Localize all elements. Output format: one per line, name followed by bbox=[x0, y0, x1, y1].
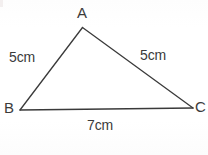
triangle-side-ac bbox=[83, 28, 194, 109]
side-length-label-bc: 7cm bbox=[87, 118, 113, 132]
triangle-side-ab bbox=[20, 28, 83, 111]
vertex-label-c: C bbox=[195, 99, 206, 114]
vertex-label-a: A bbox=[77, 5, 87, 20]
vertex-label-b: B bbox=[4, 100, 14, 115]
side-length-label-ab: 5cm bbox=[9, 50, 35, 64]
triangle-diagram-canvas: A B C 5cm 5cm 7cm bbox=[0, 0, 208, 155]
side-length-label-ac: 5cm bbox=[140, 48, 166, 62]
triangle-side-bc bbox=[20, 108, 193, 110]
